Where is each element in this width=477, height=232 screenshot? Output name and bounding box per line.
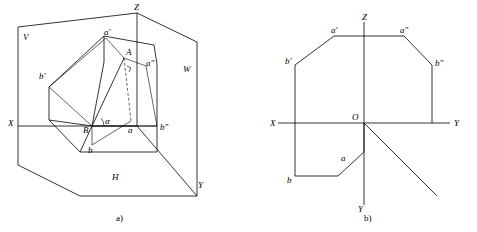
axis-Y45-line-b xyxy=(364,123,437,196)
projector-A-to-adoubleprime xyxy=(124,58,146,66)
label-H: H xyxy=(111,172,119,182)
caption-a: a) xyxy=(116,213,123,223)
panel-a-group: V W H Z X Y a' A a" b' B b" b a α a) xyxy=(7,2,204,223)
label-b-b: b xyxy=(287,175,292,185)
label-bprime-a: b' xyxy=(39,71,47,81)
label-a-b: a xyxy=(341,153,346,163)
label-W: W xyxy=(183,64,192,74)
panel-b-group: Z X Y Y O a' a" b' b" a b b) xyxy=(269,12,460,223)
label-V: V xyxy=(23,32,30,42)
projector-A-to-aprime xyxy=(106,38,124,58)
label-a-a: a xyxy=(128,125,133,135)
figure-svg: V W H Z X Y a' A a" b' B b" b a α a) xyxy=(0,0,477,232)
angle-arc-alpha xyxy=(101,118,104,126)
label-alpha-a: α xyxy=(105,116,110,126)
label-bdoubleprime-a: b" xyxy=(160,122,169,132)
label-bdoubleprime-b: b" xyxy=(435,58,444,68)
segment-aprime-bprime xyxy=(49,38,106,87)
label-aprime-a: a' xyxy=(104,27,112,37)
figure-container: V W H Z X Y a' A a" b' B b" b a α a) xyxy=(0,0,477,232)
label-aprime-b: a' xyxy=(331,25,339,35)
body-inner-edge xyxy=(92,62,104,126)
caption-b: b) xyxy=(364,213,372,223)
label-Z-b: Z xyxy=(362,12,368,22)
label-B-a: B xyxy=(83,125,89,135)
label-A-a: A xyxy=(125,47,132,57)
label-bprime-b: b' xyxy=(285,56,293,66)
label-X-a: X xyxy=(7,118,14,128)
panel-a-outline xyxy=(18,13,197,196)
label-Y-a: Y xyxy=(198,180,204,190)
label-Z-a: Z xyxy=(134,2,140,12)
label-O-b: O xyxy=(352,112,359,122)
projector-B-to-bprime xyxy=(49,87,92,126)
segment-adoubleprime-bdoubleprime xyxy=(146,66,157,126)
right-angle-tick xyxy=(127,66,131,72)
label-adoubleprime-b: a" xyxy=(400,25,409,35)
b-upper-left-top xyxy=(295,36,364,65)
segment-b-a xyxy=(92,121,131,145)
axis-y-line-a xyxy=(137,126,197,196)
body-bottom-edges xyxy=(49,120,157,152)
label-b-a: b xyxy=(88,145,93,155)
label-Y-b-right: Y xyxy=(454,118,460,128)
label-adoubleprime-a: a" xyxy=(146,58,155,68)
b-lower-left-shape xyxy=(295,123,364,176)
label-X-b: X xyxy=(269,118,276,128)
b-upper-right-top xyxy=(364,36,432,65)
body-top-edges xyxy=(49,36,157,87)
